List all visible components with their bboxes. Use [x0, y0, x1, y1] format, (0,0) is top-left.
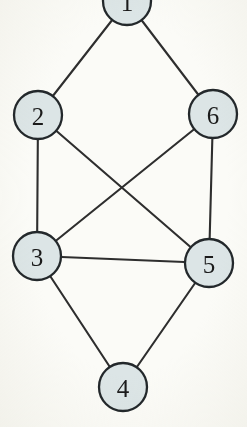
- edge-layer: [37, 1, 213, 387]
- graph-node-label-3: 3: [31, 244, 44, 271]
- graph-node-4[interactable]: 4: [99, 363, 147, 411]
- graph-diagram: 126354: [0, 0, 247, 427]
- graph-node-label-6: 6: [207, 102, 220, 129]
- graph-node-label-5: 5: [203, 251, 216, 278]
- graph-node-label-1: 1: [121, 0, 134, 16]
- graph-edge-3-5: [37, 256, 209, 263]
- graph-node-6[interactable]: 6: [189, 90, 237, 138]
- graph-node-label-2: 2: [32, 103, 45, 130]
- node-layer: 126354: [13, 0, 237, 411]
- graph-node-2[interactable]: 2: [14, 91, 62, 139]
- graph-node-label-4: 4: [117, 375, 130, 402]
- graph-edge-6-3: [37, 114, 213, 256]
- graph-node-5[interactable]: 5: [185, 239, 233, 287]
- graph-node-3[interactable]: 3: [13, 232, 61, 280]
